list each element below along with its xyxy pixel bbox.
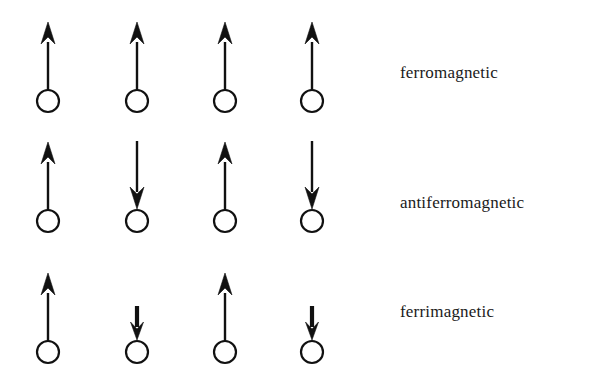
spin-site <box>301 141 323 232</box>
spin-site <box>37 142 59 232</box>
spin-site <box>126 141 148 232</box>
spin-arrowhead-up <box>218 22 232 44</box>
spin-site <box>301 306 323 363</box>
row-label-ferrimagnetic: ferrimagnetic <box>400 303 494 320</box>
spin-site-circle <box>214 210 236 232</box>
spin-site-circle <box>37 90 59 112</box>
spin-site-circle <box>301 90 323 112</box>
spin-site-circle <box>126 90 148 112</box>
spin-arrowhead-up <box>130 22 144 44</box>
spin-arrowhead-up <box>41 142 55 164</box>
spin-site-circle <box>301 341 323 363</box>
spin-site <box>126 306 148 363</box>
spin-arrowhead-up <box>305 22 319 44</box>
spin-arrowhead-up <box>218 273 232 295</box>
spin-site-circle <box>214 341 236 363</box>
spin-site <box>37 22 59 112</box>
spin-site-circle <box>214 90 236 112</box>
spin-arrowhead-up <box>41 22 55 44</box>
spin-site <box>126 22 148 112</box>
spin-site-circle <box>126 341 148 363</box>
spin-arrowhead-up <box>41 273 55 295</box>
spin-groups <box>37 22 323 363</box>
spin-site-circle <box>126 210 148 232</box>
spin-site <box>214 22 236 112</box>
spin-site-circle <box>37 341 59 363</box>
spin-site <box>37 273 59 363</box>
spin-site <box>301 22 323 112</box>
spin-site-circle <box>37 210 59 232</box>
row-label-ferromagnetic: ferromagnetic <box>400 64 498 81</box>
row-label-antiferromagnetic: antiferromagnetic <box>400 194 524 211</box>
spin-site <box>214 142 236 232</box>
spin-site <box>214 273 236 363</box>
spin-site-circle <box>301 210 323 232</box>
spin-ordering-figure: ferromagnetic antiferromagnetic ferrimag… <box>0 0 592 384</box>
spin-arrowhead-up <box>218 142 232 164</box>
spin-diagram-canvas <box>0 0 592 384</box>
